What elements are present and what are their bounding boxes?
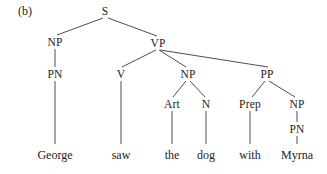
tree-node-n: N [202, 98, 211, 110]
tree-node-prep: Prep [239, 98, 261, 110]
tree-node-pp: PP [260, 68, 273, 80]
tree-node-np2: NP [180, 68, 195, 80]
tree-edge [190, 81, 205, 97]
tree-node-np3: NP [289, 98, 304, 110]
tree-leaf-myrna: Myrna [281, 148, 313, 163]
tree-leaf-saw: saw [112, 148, 131, 163]
syntax-tree-figure: (b) SNPVPPNVNPPPArtNPrepNPPN Georgesawth… [0, 0, 327, 174]
tree-node-v: V [117, 68, 126, 80]
tree-leaf-dog: dog [197, 148, 215, 163]
tree-edge [269, 81, 295, 97]
tree-edge [173, 81, 186, 97]
tree-leaf-with: with [239, 148, 260, 163]
tree-node-np1: NP [47, 36, 62, 48]
tree-leaf-george: George [37, 148, 72, 163]
tree-node-art: Art [164, 98, 180, 110]
tree-edge [159, 50, 186, 67]
tree-node-pn2: PN [289, 123, 304, 135]
tree-edge [108, 18, 157, 36]
tree-edge [122, 50, 156, 67]
tree-edge [160, 50, 268, 67]
tree-leaf-the: the [165, 148, 180, 163]
tree-node-s: S [102, 5, 109, 17]
tree-node-pn1: PN [47, 68, 62, 80]
tree-edge [252, 81, 265, 97]
tree-node-vp: VP [150, 37, 165, 49]
tree-edge [57, 18, 103, 35]
